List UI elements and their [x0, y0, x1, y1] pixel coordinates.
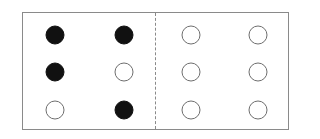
filled-dot — [115, 26, 134, 45]
empty-dot — [249, 26, 268, 45]
filled-dot — [46, 63, 65, 82]
empty-dot — [115, 63, 134, 82]
empty-dot — [182, 63, 201, 82]
empty-dot — [182, 26, 201, 45]
empty-dot — [182, 101, 201, 120]
empty-dot — [46, 101, 65, 120]
filled-dot — [46, 26, 65, 45]
empty-dot — [249, 63, 268, 82]
dashed-divider — [155, 13, 156, 129]
empty-dot — [249, 101, 268, 120]
filled-dot — [115, 101, 134, 120]
